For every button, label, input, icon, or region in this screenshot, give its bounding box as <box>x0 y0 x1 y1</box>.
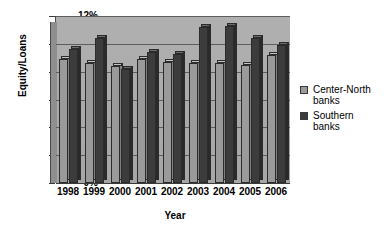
bar-group <box>56 16 82 183</box>
bar-face <box>85 63 94 183</box>
bar[interactable] <box>137 59 146 183</box>
bar-group <box>82 16 108 183</box>
bar-face <box>267 55 276 183</box>
bar-face <box>277 45 286 183</box>
legend-item[interactable]: Southern banks <box>300 110 388 132</box>
bar-group <box>160 16 186 183</box>
bar-face <box>163 62 172 183</box>
bar[interactable] <box>267 55 276 183</box>
bar[interactable] <box>173 54 182 183</box>
bar-face <box>199 27 208 183</box>
bar-side <box>78 46 81 180</box>
bar-face <box>147 52 156 183</box>
bar-groups <box>56 16 290 183</box>
bar-face <box>95 38 104 183</box>
bar[interactable] <box>199 27 208 183</box>
legend-label-center-north: Center-North banks <box>313 84 371 106</box>
bar-face <box>241 65 250 183</box>
bar-side <box>208 24 211 180</box>
bar-side <box>286 42 289 180</box>
chart-legend: Center-North banks Southern banks <box>300 84 388 136</box>
bar[interactable] <box>85 63 94 183</box>
bar[interactable] <box>215 63 224 183</box>
bar-group <box>264 16 290 183</box>
bar-face <box>59 59 68 183</box>
legend-label-southern: Southern banks <box>313 110 354 132</box>
bar-face <box>215 63 224 183</box>
bar-top <box>123 66 132 69</box>
bar-top <box>279 42 288 45</box>
bar-side <box>182 51 185 180</box>
x-tick-label: 2006 <box>258 186 294 197</box>
bar[interactable] <box>251 38 260 183</box>
bar-group <box>212 16 238 183</box>
bar-side <box>104 35 107 180</box>
bar-chart: Equity/Loans 0%2%4%6%8%10%12% 1998199920… <box>0 0 391 232</box>
bar-group <box>186 16 212 183</box>
bar-top <box>149 49 158 52</box>
legend-label-line1: Southern <box>313 110 354 121</box>
bar-face <box>225 26 234 183</box>
plot-area <box>55 16 290 183</box>
bar[interactable] <box>277 45 286 183</box>
y-tick-mark <box>49 183 55 184</box>
bar-side <box>156 49 159 180</box>
bar-top <box>201 24 210 27</box>
bar-face <box>251 38 260 183</box>
bar-side <box>260 35 263 180</box>
bar-top <box>175 51 184 54</box>
bar[interactable] <box>69 49 78 183</box>
bar[interactable] <box>147 52 156 183</box>
bar-group <box>108 16 134 183</box>
bar[interactable] <box>163 62 172 183</box>
bar-face <box>173 54 182 183</box>
plot-floor <box>56 183 290 184</box>
bar-face <box>69 49 78 183</box>
legend-swatch-center-north-icon <box>300 86 308 94</box>
legend-item[interactable]: Center-North banks <box>300 84 388 106</box>
legend-label-line1: Center-North <box>313 84 371 95</box>
legend-label-line2: banks <box>313 121 340 132</box>
bar-face <box>121 69 130 183</box>
bar[interactable] <box>189 63 198 183</box>
bar-face <box>111 66 120 183</box>
bar-group <box>134 16 160 183</box>
bar[interactable] <box>225 26 234 183</box>
bar[interactable] <box>111 66 120 183</box>
bar-face <box>137 59 146 183</box>
y-axis-title: Equity/Loans <box>17 6 28 126</box>
legend-swatch-southern-icon <box>300 112 308 120</box>
bar[interactable] <box>95 38 104 183</box>
bar-face <box>189 63 198 183</box>
bar[interactable] <box>121 69 130 183</box>
bar-side <box>234 23 237 180</box>
bar-top <box>113 63 122 66</box>
bar-top <box>71 46 80 49</box>
bar[interactable] <box>59 59 68 183</box>
bar[interactable] <box>241 65 250 183</box>
bar-top <box>97 35 106 38</box>
legend-label-line2: banks <box>313 95 340 106</box>
bar-side <box>130 66 133 180</box>
x-axis-title: Year <box>60 210 290 221</box>
bar-top <box>227 23 236 26</box>
bar-group <box>238 16 264 183</box>
bar-top <box>253 35 262 38</box>
